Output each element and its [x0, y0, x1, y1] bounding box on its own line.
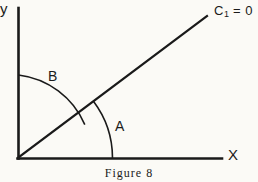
figure-drawing: [0, 0, 258, 182]
angle-b-label: B: [48, 69, 57, 83]
curve-label-tail: = 0: [229, 3, 253, 18]
curve-c1-ray: [19, 16, 208, 158]
angle-a-label: A: [115, 119, 124, 133]
curve-equation-label: C1 = 0: [214, 4, 253, 19]
y-axis-label: y: [0, 1, 8, 16]
figure-canvas: y X B A C1 = 0 Figure 8: [0, 0, 258, 182]
curve-label-base: C: [214, 3, 224, 18]
x-axis-label: X: [228, 147, 238, 162]
angle-a-arc: [94, 102, 113, 158]
figure-caption: Figure 8: [0, 166, 258, 181]
